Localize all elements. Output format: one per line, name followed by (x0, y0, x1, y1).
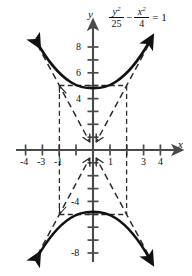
asymptote-pos-lower (96, 158, 148, 255)
asymptote-neg-lower (38, 158, 90, 255)
x-tick-label-neg1: -1 (54, 156, 62, 167)
x-tick-label-4: 4 (158, 156, 163, 167)
y-axis-label: y (88, 8, 93, 20)
asymptote-pos-upper (38, 45, 90, 142)
x-tick-label-3: 3 (141, 156, 146, 167)
equation-left-denominator: 25 (110, 18, 124, 29)
y-tick-label-neg4: -4 (71, 196, 79, 207)
equation-label: y2 25 − x2 4 = 1 (108, 6, 167, 29)
equation-left-fraction: y2 25 (109, 6, 124, 29)
x-axis-label: x (178, 138, 183, 150)
equation-operator: − (126, 12, 132, 23)
equation-right-fraction: x2 4 (134, 6, 149, 29)
y-tick-label-8: 8 (76, 41, 81, 52)
hyperbola-figure: y2 25 − x2 4 = 1 x y -4 -3 -1 1 3 4 8 6 … (0, 0, 192, 276)
y-tick-label-4: 4 (76, 93, 81, 104)
asymptote-neg-upper (96, 45, 148, 142)
y-tick-label-6: 6 (76, 67, 81, 78)
equation-right-denominator: 4 (137, 18, 146, 29)
equation-left-numerator: y2 (111, 6, 123, 17)
y-tick-label-neg8: -8 (71, 247, 79, 258)
x-tick-label-neg3: -3 (37, 156, 45, 167)
graph-canvas (0, 0, 192, 276)
equation-equals-one: = 1 (152, 12, 166, 23)
x-tick-label-1: 1 (108, 156, 113, 167)
x-tick-label-neg4: -4 (20, 156, 28, 167)
equation-right-numerator: x2 (136, 6, 148, 17)
